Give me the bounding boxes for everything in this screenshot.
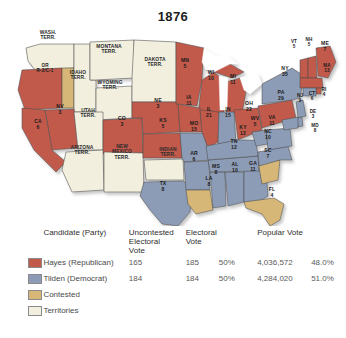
legend-uncontested-electoral-vote: 184 — [129, 271, 186, 287]
state-al[interactable] — [225, 172, 244, 206]
color-swatch-territory — [28, 306, 42, 316]
state-nm-territory[interactable] — [104, 152, 144, 192]
legend-row[interactable]: Territories — [28, 303, 346, 319]
state-co[interactable] — [103, 118, 143, 154]
legend-popular-vote — [257, 287, 311, 303]
color-swatch-republican — [28, 258, 42, 268]
legend-candidate-label: Contested — [43, 287, 128, 303]
state-indian-territory[interactable] — [144, 159, 184, 180]
header-electoral-vote: Electoral Vote — [186, 228, 219, 255]
state-ar[interactable] — [184, 161, 210, 190]
legend-table: Candidate (Party) Uncontested Electoral … — [28, 228, 346, 319]
us-election-map-svg — [0, 20, 346, 226]
state-ma[interactable] — [300, 78, 323, 88]
legend-row[interactable]: Contested — [28, 287, 346, 303]
state-dakota-territory[interactable] — [132, 40, 176, 102]
map-area: WASH.TERR.ORR-2/C-1IDAHOTERR.MONTANATERR… — [0, 20, 346, 226]
state-or-contested-stripe[interactable] — [62, 68, 74, 108]
legend-electoral-vote-pct: 50% — [219, 255, 257, 271]
state-va[interactable] — [266, 128, 292, 150]
legend-electoral-vote: 185 — [186, 255, 219, 271]
state-ct[interactable] — [303, 88, 316, 96]
legend-electoral-vote-pct — [219, 287, 257, 303]
legend-swatch-cell — [28, 287, 43, 303]
legend-electoral-vote: 184 — [186, 271, 219, 287]
state-mt-territory[interactable] — [90, 40, 134, 80]
header-popular-vote-pct — [311, 228, 346, 255]
state-nj[interactable] — [296, 100, 306, 118]
header-electoral-vote-pct — [219, 228, 257, 255]
state-ut-territory[interactable] — [74, 112, 103, 150]
lake-michigan-water — [219, 76, 228, 110]
state-ia[interactable] — [178, 104, 202, 132]
state-fl[interactable] — [244, 198, 284, 226]
state-ny[interactable] — [262, 68, 304, 104]
state-az-territory[interactable] — [62, 150, 104, 192]
state-vt[interactable] — [300, 58, 308, 78]
legend-popular-vote — [257, 303, 311, 319]
legend-electoral-vote — [186, 303, 219, 319]
legend-table-head: Candidate (Party) Uncontested Electoral … — [28, 228, 346, 255]
state-wa-territory[interactable] — [26, 44, 74, 70]
legend-swatch-cell — [28, 255, 43, 271]
legend-candidate-label: Hayes (Republican) — [43, 255, 128, 271]
election-map-figure: 1876 — [0, 0, 346, 338]
state-tx[interactable] — [140, 181, 193, 226]
legend-popular-vote-pct — [311, 287, 346, 303]
legend-candidate-label: Tilden (Democrat) — [43, 271, 128, 287]
legend-popular-vote-pct: 51.0% — [311, 271, 346, 287]
header-uncontested-electoral-vote: Uncontested Electoral Vote — [129, 228, 186, 255]
state-or[interactable] — [18, 68, 62, 110]
state-nh[interactable] — [308, 56, 317, 78]
legend-candidate-label: Territories — [43, 303, 128, 319]
header-popular-vote: Popular Vote — [257, 228, 311, 255]
color-swatch-democrat — [28, 274, 42, 284]
map-shape-group — [18, 40, 336, 226]
state-ks[interactable] — [143, 133, 182, 158]
color-swatch-contested — [28, 290, 42, 300]
state-ri[interactable] — [316, 88, 321, 94]
legend-electoral-vote — [186, 287, 219, 303]
state-me[interactable] — [316, 46, 336, 78]
legend-uncontested-electoral-vote — [129, 303, 186, 319]
header-candidate: Candidate (Party) — [43, 228, 128, 255]
legend-electoral-vote-pct: 50% — [219, 271, 257, 287]
legend-swatch-cell — [28, 303, 43, 319]
legend-table-body: Hayes (Republican)16518550%4,036,57248.0… — [28, 255, 346, 319]
legend-uncontested-electoral-vote — [129, 287, 186, 303]
legend-popular-vote-pct: 48.0% — [311, 255, 346, 271]
legend-electoral-vote-pct — [219, 303, 257, 319]
state-in[interactable] — [218, 112, 236, 144]
legend-panel: Candidate (Party) Uncontested Electoral … — [0, 228, 346, 338]
legend-popular-vote: 4,284,020 — [257, 271, 311, 287]
legend-popular-vote-pct — [311, 303, 346, 319]
legend-popular-vote: 4,036,572 — [257, 255, 311, 271]
legend-row[interactable]: Hayes (Republican)16518550%4,036,57248.0… — [28, 255, 346, 271]
legend-swatch-cell — [28, 271, 43, 287]
header-swatch — [28, 228, 43, 255]
legend-uncontested-electoral-vote: 165 — [129, 255, 186, 271]
legend-header-row: Candidate (Party) Uncontested Electoral … — [28, 228, 346, 255]
legend-row[interactable]: Tilden (Democrat)18418450%4,284,02051.0% — [28, 271, 346, 287]
state-ms[interactable] — [210, 172, 226, 208]
